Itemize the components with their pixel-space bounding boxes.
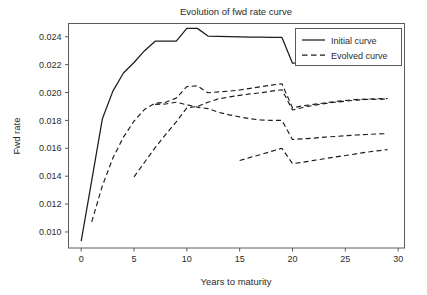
legend-label-initial-curve: Initial curve — [331, 36, 377, 46]
chart-legend: Initial curve Evolved curve — [296, 29, 402, 66]
chart-figure: Evolution of fwd rate curve 0.0100.0120.… — [0, 0, 427, 295]
x-tick-label: 15 — [235, 254, 245, 264]
y-tick-label: 0.016 — [39, 143, 62, 153]
series-line-evolved-curve-3 — [155, 102, 387, 139]
x-tick-label: 25 — [340, 254, 350, 264]
x-axis-title: Years to maturity — [201, 276, 272, 287]
y-axis-ticks: 0.0100.0120.0140.0160.0180.0200.0220.024 — [39, 32, 69, 237]
chart-title: Evolution of fwd rate curve — [180, 6, 292, 17]
y-tick-label: 0.024 — [39, 32, 62, 42]
y-tick-label: 0.018 — [39, 116, 62, 126]
y-tick-label: 0.012 — [39, 199, 62, 209]
x-tick-label: 10 — [182, 254, 192, 264]
fwd-rate-line-chart: Evolution of fwd rate curve 0.0100.0120.… — [0, 0, 427, 295]
y-tick-label: 0.022 — [39, 60, 62, 70]
x-tick-label: 30 — [393, 254, 403, 264]
x-tick-label: 20 — [287, 254, 297, 264]
x-tick-label: 5 — [132, 254, 137, 264]
y-tick-label: 0.020 — [39, 88, 62, 98]
series-line-evolved-curve-4 — [240, 148, 388, 163]
x-axis-ticks: 051015202530 — [79, 248, 403, 264]
y-axis-title: Fwd rate — [11, 118, 22, 155]
y-tick-label: 0.010 — [39, 227, 62, 237]
y-tick-label: 0.014 — [39, 171, 62, 181]
legend-label-evolved-curve: Evolved curve — [331, 51, 388, 61]
series-line-evolved-curve-1 — [92, 84, 388, 222]
x-tick-label: 0 — [79, 254, 84, 264]
